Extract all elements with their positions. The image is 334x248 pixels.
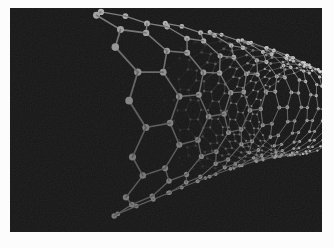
nanotube-render	[10, 8, 322, 232]
scanned-figure-page	[0, 0, 334, 248]
nanotube-photo	[10, 8, 322, 232]
photo-grain-overlay	[10, 8, 322, 232]
